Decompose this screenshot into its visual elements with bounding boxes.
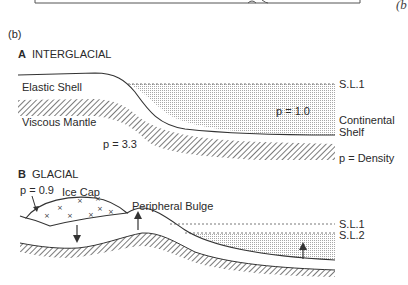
previous-figure-fragment: (b <box>35 0 407 12</box>
ice-marker: × <box>88 211 94 219</box>
figure-label: (b) <box>8 28 21 40</box>
ice-marker: × <box>97 205 103 213</box>
peripheral-bulge-label: Peripheral Bulge <box>132 200 213 212</box>
ice-marker: × <box>67 212 73 220</box>
sea-level-2-label: S.L.2 <box>339 229 365 241</box>
panel-glacial: B GLACIAL × × × × × × × × <box>18 168 365 277</box>
sea-level-1-label: S.L.1 <box>339 78 365 90</box>
continental-label: Continental <box>339 114 395 126</box>
up-arrow-bulge-icon <box>134 211 142 230</box>
panel-a-title: INTERGLACIAL <box>32 48 111 60</box>
ice-density-label: p = 0.9 <box>20 184 54 196</box>
ice-marker: × <box>57 204 63 212</box>
ice-cap-base-left <box>20 216 26 218</box>
panel-a-letter: A <box>18 48 26 60</box>
water-density-label: p = 1.0 <box>276 105 310 117</box>
viscous-mantle-label: Viscous Mantle <box>22 116 96 128</box>
down-arrow-icon <box>73 225 81 243</box>
mantle-density-label: p = 3.3 <box>103 138 137 150</box>
shelf-label: Shelf <box>339 126 365 138</box>
ice-marker: × <box>44 212 50 220</box>
density-legend-label: p = Density <box>339 152 395 164</box>
panel-b-letter: B <box>18 168 26 180</box>
previous-figure-caption: (b <box>396 0 407 12</box>
ice-cap-label: Ice Cap <box>62 186 100 198</box>
ice-marker: × <box>77 197 83 205</box>
panel-b-title: GLACIAL <box>32 168 78 180</box>
panel-interglacial: A INTERGLACIAL Elastic Shell Viscous Man… <box>18 48 395 164</box>
ice-marker: × <box>108 208 114 216</box>
elastic-shell-label: Elastic Shell <box>22 81 82 93</box>
glacial-isostasy-diagram: (b (b) A INTERGLACIAL Elastic Shell Visc… <box>0 0 408 285</box>
